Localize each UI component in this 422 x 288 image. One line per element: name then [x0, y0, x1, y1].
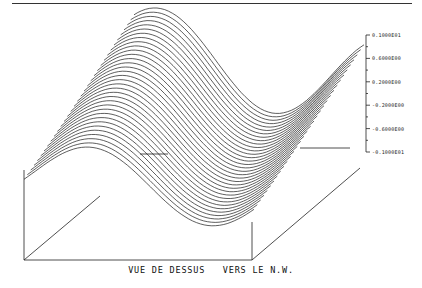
z-axis	[366, 35, 370, 152]
plot-box-frame	[24, 148, 360, 260]
box-diag-left	[24, 196, 100, 260]
box-diag-right	[252, 168, 360, 260]
surface-profile-curve	[61, 101, 291, 189]
surface-profile-curve	[31, 139, 261, 219]
surface-profile-curve	[74, 84, 304, 175]
surface-profile-curve	[124, 21, 354, 124]
surface-profile-curve	[34, 135, 264, 216]
z-axis-tick-label: 0.6000E00	[372, 55, 401, 61]
z-axis-tick-label: -0.2000E00	[372, 102, 404, 108]
surface-profile-curve	[51, 113, 281, 198]
z-axis-tick-label: -0.6000E00	[372, 126, 404, 132]
surface-plot	[0, 0, 422, 288]
surface-profiles	[24, 8, 364, 226]
box-front-edge	[24, 222, 252, 260]
surface-profile-curve	[121, 25, 351, 127]
z-axis-tick-label: -0.1000E01	[372, 149, 404, 155]
surface-profile-curve	[24, 147, 254, 226]
z-axis-tick-label: 0.2000E00	[372, 79, 401, 85]
plot-caption: VUE DE DESSUS VERS LE N.W.	[0, 265, 422, 275]
z-axis-tick-label: 0.1000E01	[372, 32, 401, 38]
